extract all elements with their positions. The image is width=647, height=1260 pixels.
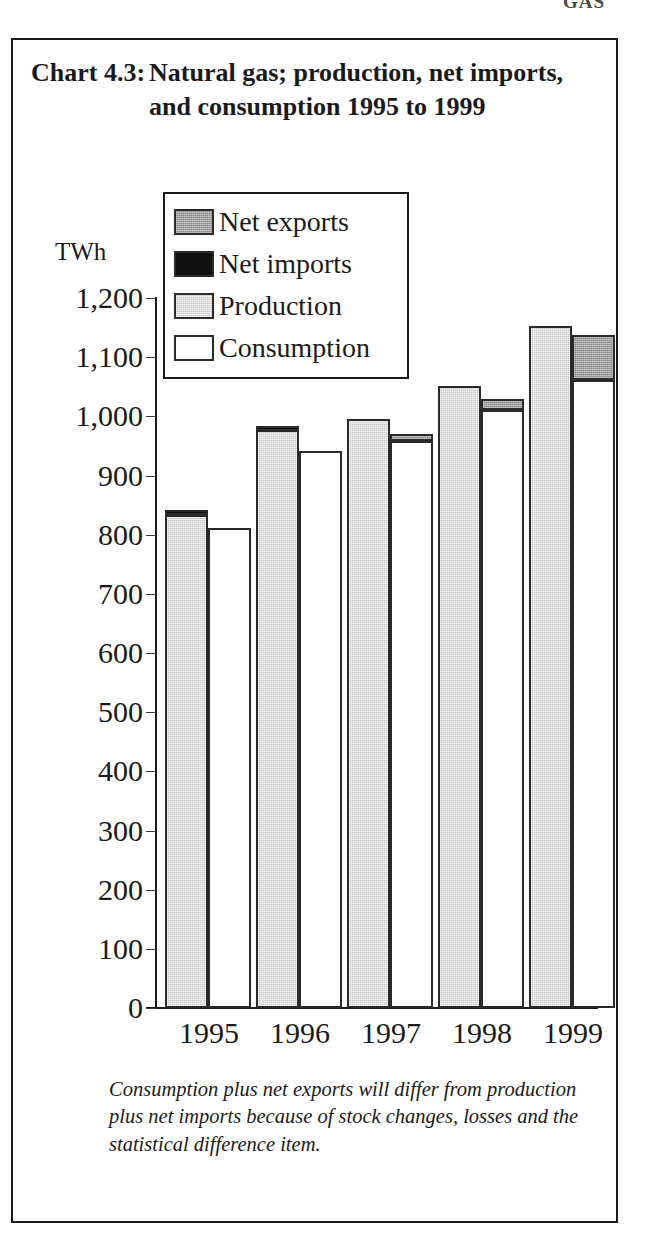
bar-consumption <box>390 441 433 1008</box>
y-axis-tick <box>146 890 156 891</box>
y-axis-tick-label: 200 <box>47 875 143 905</box>
y-axis-tick-label: 1,200 <box>47 283 143 313</box>
y-axis-tick-label: 400 <box>47 756 143 786</box>
bar-net-exports <box>481 399 524 410</box>
chart-legend: Net exports Net imports Production Consu… <box>163 192 409 379</box>
y-axis-tick-label: 900 <box>47 461 143 491</box>
bar-net-exports <box>390 434 433 441</box>
legend-label-production: Production <box>219 292 342 320</box>
bar-net-exports <box>572 335 615 380</box>
bar-production <box>438 386 481 1008</box>
x-axis-label: 1999 <box>518 1016 628 1050</box>
legend-label-net-exports: Net exports <box>219 208 349 236</box>
y-axis-tick <box>146 357 156 358</box>
legend-item-net-imports: Net imports <box>174 243 398 285</box>
y-axis-tick-label: 600 <box>47 638 143 668</box>
y-axis-tick <box>146 949 156 950</box>
y-axis-tick-label: 1,000 <box>47 401 143 431</box>
y-axis-tick <box>146 535 156 536</box>
y-axis-tick-label: 500 <box>47 697 143 727</box>
y-axis-unit-label: TWh <box>55 238 106 266</box>
y-axis-tick <box>146 653 156 654</box>
y-axis-tick <box>146 712 156 713</box>
legend-swatch-production <box>174 293 214 319</box>
y-axis-tick <box>146 416 156 417</box>
bar-consumption <box>572 380 615 1008</box>
y-axis-tick <box>146 594 156 595</box>
legend-item-consumption: Consumption <box>174 327 398 369</box>
chart-footnote: Consumption plus net exports will differ… <box>109 1076 579 1158</box>
legend-item-net-exports: Net exports <box>174 201 398 243</box>
bar-consumption <box>208 528 251 1008</box>
y-axis-tick-label: 100 <box>47 934 143 964</box>
y-axis-tick-label: 800 <box>47 520 143 550</box>
bar-production <box>256 430 299 1008</box>
bar-net-imports <box>165 510 208 515</box>
plot-area: TWh 1,2001,1001,000900800700600500400300… <box>13 40 620 1225</box>
legend-item-production: Production <box>174 285 398 327</box>
y-axis-tick-label: 700 <box>47 579 143 609</box>
bar-production <box>165 515 208 1008</box>
bar-net-imports <box>256 426 299 431</box>
y-axis-tick <box>146 771 156 772</box>
bar-production <box>529 326 572 1008</box>
y-axis-tick-label: 300 <box>47 816 143 846</box>
bar-production <box>347 419 390 1008</box>
y-axis-tick <box>146 298 156 299</box>
legend-label-net-imports: Net imports <box>219 250 352 278</box>
running-head: GAS <box>563 0 605 13</box>
y-axis-tick <box>146 1008 156 1009</box>
bar-consumption <box>481 410 524 1008</box>
legend-swatch-net-imports <box>174 251 214 277</box>
y-axis-tick <box>146 476 156 477</box>
legend-label-consumption: Consumption <box>219 334 370 362</box>
legend-swatch-consumption <box>174 335 214 361</box>
y-axis-tick-label: 1,100 <box>47 342 143 372</box>
chart-frame: Chart 4.3:Natural gas; production, net i… <box>11 38 618 1223</box>
bar-consumption <box>299 451 342 1008</box>
y-axis-tick-label: 0 <box>47 993 143 1023</box>
legend-swatch-net-exports <box>174 209 214 235</box>
y-axis-tick <box>146 831 156 832</box>
